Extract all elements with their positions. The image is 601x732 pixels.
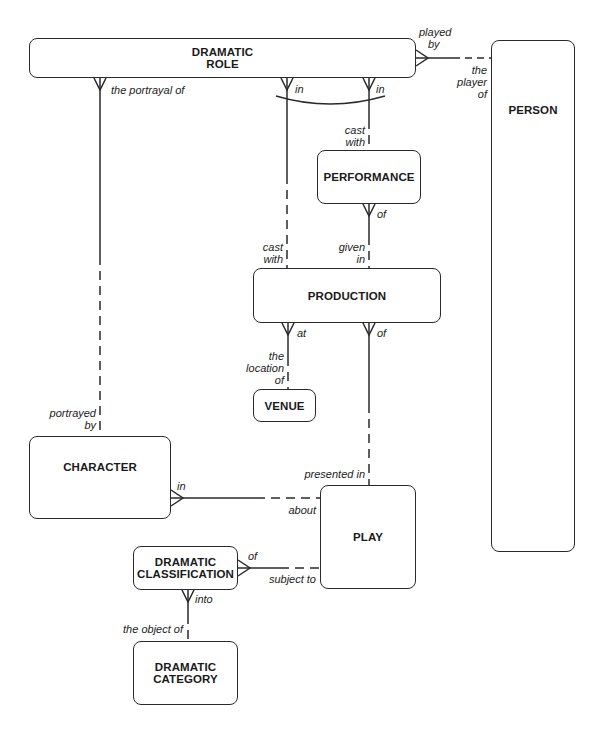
entity-performance[interactable]: PERFORMANCE <box>317 150 421 204</box>
entity-label: DRAMATIC <box>137 556 234 568</box>
label-of-classification: of <box>248 550 257 562</box>
label-into: into <box>195 593 213 605</box>
label-played-by: played by <box>419 26 451 50</box>
entity-dramatic-role[interactable]: DRAMATICROLE <box>29 38 416 78</box>
label-portrayed-by: portrayed by <box>36 407 96 431</box>
entity-label: VENUE <box>264 400 304 412</box>
entity-label: DRAMATIC <box>192 46 253 58</box>
label-of-performance: of <box>377 208 386 220</box>
label-at: at <box>297 327 306 339</box>
relationship-role-character <box>94 78 106 436</box>
entity-label: PERSON <box>508 104 557 116</box>
entity-play[interactable]: PLAY <box>320 485 416 589</box>
relationship-classification-category <box>182 590 194 641</box>
label-cast-with-production: cast with <box>250 241 283 265</box>
entity-dramatic-category[interactable]: DRAMATICCATEGORY <box>133 641 238 705</box>
label-given-in: given in <box>330 241 365 265</box>
label-the-object-of: the object of <box>100 623 183 635</box>
entity-label: ROLE <box>192 58 253 70</box>
label-in-character: in <box>177 480 186 492</box>
label-the-portrayal-of: the portrayal of <box>111 84 184 96</box>
relationship-production-play <box>363 323 375 485</box>
entity-label: DRAMATIC <box>153 661 218 673</box>
label-in-role-performance: in <box>376 83 385 95</box>
relationship-role-production <box>281 78 293 268</box>
label-the-location-of: the location of <box>236 350 284 386</box>
entity-label: PRODUCTION <box>308 290 386 302</box>
entity-character[interactable]: CHARACTER <box>29 436 171 519</box>
label-subject-to: subject to <box>255 573 316 585</box>
label-of-production: of <box>377 327 386 339</box>
entity-person[interactable]: PERSON <box>491 40 575 552</box>
entity-label: CLASSIFICATION <box>137 568 234 580</box>
label-about: about <box>270 504 316 516</box>
entity-dramatic-classification[interactable]: DRAMATICCLASSIFICATION <box>133 546 238 590</box>
label-cast-with-performance: cast with <box>332 124 365 148</box>
entity-label: PLAY <box>353 531 383 543</box>
label-the-player-of: the player of <box>450 64 487 100</box>
label-in-role-production: in <box>295 83 304 95</box>
entity-label: PERFORMANCE <box>323 171 414 183</box>
entity-label: CHARACTER <box>63 461 137 473</box>
entity-venue[interactable]: VENUE <box>253 389 316 422</box>
entity-production[interactable]: PRODUCTION <box>253 268 441 323</box>
entity-label: CATEGORY <box>153 673 218 685</box>
label-presented-in: presented in <box>290 468 365 480</box>
